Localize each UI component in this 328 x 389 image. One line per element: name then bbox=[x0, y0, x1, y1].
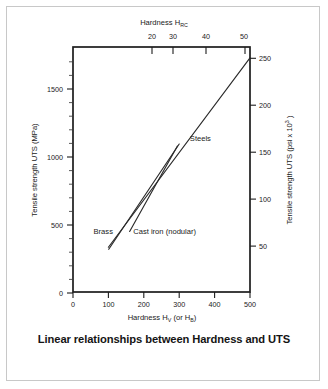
top-tick-label-1: 30 bbox=[169, 32, 177, 41]
bottom-axis-title-suffix: ) bbox=[194, 313, 197, 322]
bottom-tick-label-0: 0 bbox=[71, 300, 75, 309]
top-tick-label-2: 40 bbox=[202, 32, 210, 41]
right-axis-ticks bbox=[250, 58, 256, 246]
top-axis-title-text: Hardness H bbox=[140, 18, 180, 27]
series-line-cast-iron bbox=[130, 146, 178, 231]
left-tick-label-3: 1500 bbox=[47, 85, 63, 94]
top-axis-tick-labels: 20 30 40 50 bbox=[148, 32, 248, 41]
bottom-tick-label-5: 500 bbox=[244, 300, 256, 309]
right-axis-title-text: Tensile strength UTS (psi x 10 bbox=[285, 123, 294, 224]
right-axis-title-suffix: ) bbox=[285, 115, 294, 120]
left-tick-label-2: 1000 bbox=[47, 153, 63, 162]
chart-plot-area: Hardness HRC 20 30 40 50 bbox=[7, 7, 321, 327]
bottom-axis-ticks bbox=[73, 292, 250, 298]
right-tick-label-2: 150 bbox=[259, 148, 271, 157]
bottom-axis-title: Hardness HV (or HB) bbox=[128, 313, 197, 323]
right-tick-label-4: 250 bbox=[259, 54, 271, 63]
right-axis-title: Tensile strength UTS (psi x 103 ) bbox=[284, 115, 294, 224]
left-tick-label-0: 0 bbox=[59, 289, 63, 298]
right-tick-label-0: 50 bbox=[259, 242, 267, 251]
bottom-tick-label-4: 400 bbox=[209, 300, 221, 309]
bottom-tick-label-3: 300 bbox=[173, 300, 185, 309]
figure-caption: Linear relationships between Hardness an… bbox=[7, 333, 321, 345]
left-tick-label-1: 500 bbox=[51, 221, 63, 230]
left-axis-title: Tensile strength UTS (MPa) bbox=[30, 123, 39, 217]
right-tick-label-1: 100 bbox=[259, 195, 271, 204]
series-label-brass: Brass bbox=[94, 227, 114, 236]
series-annotations: Steels Brass Cast iron (nodular) bbox=[94, 134, 212, 236]
top-tick-label-3: 50 bbox=[240, 32, 248, 41]
figure-card: Hardness HRC 20 30 40 50 bbox=[6, 6, 320, 381]
right-tick-label-3: 200 bbox=[259, 101, 271, 110]
top-axis-title-sub: RC bbox=[180, 22, 188, 28]
right-axis-tick-labels: 50 100 150 200 250 bbox=[259, 54, 271, 251]
series-label-steels: Steels bbox=[190, 134, 211, 143]
data-series-group bbox=[108, 58, 250, 249]
bottom-tick-label-1: 100 bbox=[102, 300, 114, 309]
bottom-tick-label-2: 200 bbox=[138, 300, 150, 309]
bottom-axis-title-mid: (or H bbox=[171, 313, 190, 322]
top-axis-ticks bbox=[152, 47, 245, 54]
top-axis-title: Hardness HRC bbox=[140, 18, 188, 28]
bottom-axis-tick-labels: 0 100 200 300 400 500 bbox=[71, 300, 256, 309]
hardness-uts-chart: Hardness HRC 20 30 40 50 bbox=[7, 7, 321, 327]
bottom-axis-title-prefix: Hardness H bbox=[128, 313, 168, 322]
top-tick-label-0: 20 bbox=[148, 32, 156, 41]
left-axis-tick-labels: 0 500 1000 1500 bbox=[47, 85, 63, 298]
left-axis-major-ticks bbox=[67, 89, 73, 293]
series-label-cast-iron: Cast iron (nodular) bbox=[133, 227, 196, 236]
